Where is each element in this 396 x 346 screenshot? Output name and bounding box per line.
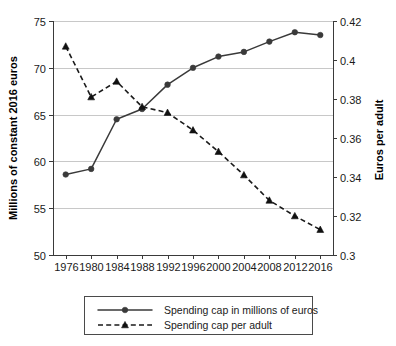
- x-axis-tick-label: 1984: [105, 261, 129, 273]
- x-axis-tick-label: 1988: [130, 261, 154, 273]
- data-point-marker: [241, 49, 247, 55]
- y-axis-right-tick-label: 0.3: [340, 250, 355, 262]
- y-axis-left-tick-label: 70: [34, 63, 46, 75]
- y-axis-left-tick-label: 60: [34, 156, 46, 168]
- x-axis-tick-label: 1976: [54, 261, 78, 273]
- data-point-marker: [63, 172, 69, 178]
- y-axis-right-tick-label: 0.32: [340, 211, 361, 223]
- x-axis-tick-labels: 1976198019841988199219962000200420082012…: [54, 261, 332, 273]
- data-point-marker: [267, 39, 273, 45]
- data-point-marker: [292, 29, 298, 35]
- dual-axis-line-chart: 505560657075 0.30.320.340.360.380.40.42 …: [0, 0, 396, 346]
- y-axis-left-title: Millions of constant 2016 euros: [7, 56, 19, 220]
- legend-label: Spending cap per adult: [164, 319, 272, 331]
- x-axis-tick-label: 1992: [156, 261, 180, 273]
- y-axis-right-tick-label: 0.4: [340, 55, 355, 67]
- y-axis-right-tick-label: 0.34: [340, 172, 361, 184]
- y-axis-left-tick-label: 55: [34, 203, 46, 215]
- chart-legend: Spending cap in millions of eurosSpendin…: [85, 297, 319, 335]
- y-axis-right-tick-label: 0.36: [340, 133, 361, 145]
- x-axis-tick-label: 2004: [232, 261, 256, 273]
- x-axis-tick-label: 2008: [257, 261, 281, 273]
- chart-root: 505560657075 0.30.320.340.360.380.40.42 …: [0, 0, 396, 346]
- data-point-marker: [114, 116, 120, 122]
- y-axis-left-tick-label: 65: [34, 110, 46, 122]
- x-axis-tick-label: 1980: [79, 261, 103, 273]
- y-axis-left-tick-label: 50: [34, 250, 46, 262]
- y-axis-left-tick-label: 75: [34, 16, 46, 28]
- data-point-marker: [165, 82, 171, 88]
- legend-label: Spending cap in millions of euros: [164, 304, 318, 316]
- x-axis-tick-label: 1996: [181, 261, 205, 273]
- x-axis-tick-label: 2000: [206, 261, 230, 273]
- y-axis-right-title: Euros per adult: [373, 99, 385, 180]
- x-axis-tick-label: 2016: [308, 261, 332, 273]
- data-point-marker: [88, 166, 94, 172]
- chart-background: [0, 0, 396, 346]
- data-point-marker: [317, 32, 323, 38]
- x-axis-tick-label: 2012: [283, 261, 307, 273]
- data-point-marker: [190, 65, 196, 71]
- y-axis-right-tick-label: 0.38: [340, 94, 361, 106]
- data-point-marker: [122, 307, 128, 313]
- data-point-marker: [216, 54, 222, 60]
- y-axis-right-tick-label: 0.42: [340, 16, 361, 28]
